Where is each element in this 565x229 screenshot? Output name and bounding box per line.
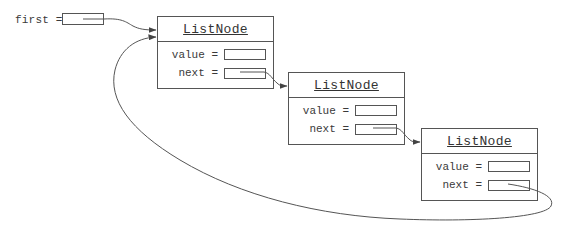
node-title: ListNode [289,79,404,93]
list-node-1: ListNode value = next = [157,16,274,89]
next-field-label: next = [309,123,349,135]
node-title: ListNode [422,135,537,149]
next-field-label: next = [178,67,218,79]
next-field-box [488,180,530,191]
value-field-box [224,49,266,60]
linked-list-diagram: first = ListNode value = next = ListNode… [0,0,565,229]
next-field-label: next = [442,179,482,191]
first-reference-box [62,13,104,25]
node-header: ListNode [289,73,404,98]
node-header: ListNode [158,17,273,42]
next-field-box [224,68,266,79]
node-header: ListNode [422,129,537,154]
next-field-box [355,124,397,135]
first-reference-label: first = [15,14,63,26]
list-node-3: ListNode value = next = [421,128,538,201]
value-field-label: value = [303,105,349,117]
value-field-label: value = [436,161,482,173]
list-node-2: ListNode value = next = [288,72,405,145]
node-title: ListNode [158,23,273,37]
value-field-box [488,161,530,172]
value-field-box [355,105,397,116]
value-field-label: value = [172,49,218,61]
